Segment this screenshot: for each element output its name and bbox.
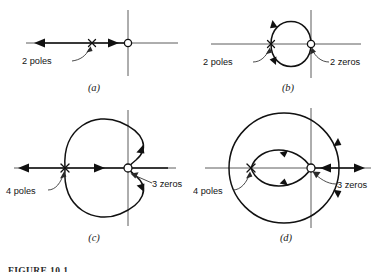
branch-arrow-lower-b [270,57,277,65]
pole-leader-line-b [253,50,269,62]
panel-letter-b: (b) [268,82,308,93]
panel-letter-a: (a) [74,82,114,93]
branch-arrow-inward-d [320,164,331,173]
locus-upper-lobe-c [65,119,144,168]
zero-leader-line-c [136,176,152,183]
zero-marker-d [307,164,315,172]
root-locus-figure: 2 poles (a) 2 poles 2 zeros (b) [0,0,386,272]
pole-label-b: 2 poles [203,57,233,67]
locus-upper-arc-b [271,22,311,45]
branch-arrow-right [108,39,119,48]
locus-lower-lobe-c [65,168,144,217]
pole-label-a: 2 poles [22,56,52,66]
zero-marker-b [307,40,314,47]
branch-arrow-far-right-d [354,164,365,173]
pole-label-d: 4 poles [193,186,223,196]
panel-b: 2 poles 2 zeros [193,2,386,80]
zero-label-c: 3 zeros [152,179,183,189]
panel-a: 2 poles [0,2,193,80]
panel-c: 4 poles 3 zeros [0,100,193,230]
branch-arrow-left-c [18,164,29,173]
pole-leader-line-a [72,49,90,62]
branch-arrow-upper-c [136,145,144,153]
panel-letter-c: (c) [74,232,114,243]
branch-arrow-lens-upper-d [280,151,288,158]
zero-marker-c [124,164,132,172]
zero-label-b: 2 zeros [330,57,361,67]
branch-arrow-lens-lower-d [280,178,288,185]
pole-label-c: 4 poles [6,186,36,196]
zero-marker-a [124,39,131,46]
branch-arrow-right-c [94,164,105,173]
branch-arrow-outer-upper-d [333,138,341,146]
panel-letter-d: (d) [266,232,306,243]
figure-caption: FIGURE 10.1 [8,266,68,272]
zero-label-d: 3 zeros [337,180,368,190]
branch-arrow-lower-c [137,183,145,192]
pole-leader-arrow-a [86,46,92,52]
pole-leader-line-d [233,174,250,190]
locus-lower-arc-b [271,44,311,67]
pole-leader-line-c [48,174,64,190]
branch-arrow-upper-b [270,20,278,28]
branch-arrow-left [34,39,45,48]
panel-d: 4 poles 3 zeros [193,100,386,230]
branch-arrow-outer-lower-d [333,190,341,198]
